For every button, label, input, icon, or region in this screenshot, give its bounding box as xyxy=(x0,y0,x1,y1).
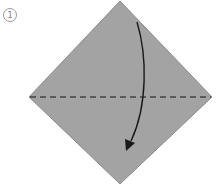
origami-diagram xyxy=(0,0,222,184)
paper-square xyxy=(29,1,212,184)
